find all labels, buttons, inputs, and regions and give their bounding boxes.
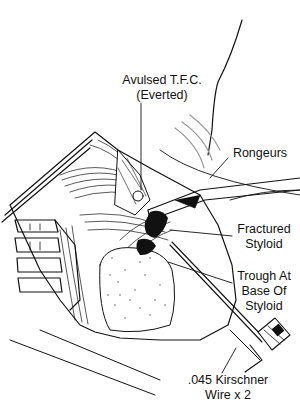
label-avulsed-tfc: Avulsed T.F.C. (Everted) [108,73,216,103]
label-rongeurs: Rongeurs [228,146,292,161]
label-kirschner-wire-line1: .045 Kirschner [180,373,276,388]
label-avulsed-tfc-line2: (Everted) [108,88,216,103]
tfc-flap [115,150,150,215]
label-fractured-styloid-line1: Fractured [232,222,296,237]
label-trough-line2: Base Of [232,284,296,299]
label-trough-line1: Trough At [232,269,296,284]
label-fractured-styloid-line2: Styloid [232,237,296,252]
forearm-contour [160,20,300,200]
ulnar-head [100,248,175,332]
leader-wire [222,348,236,373]
leader-styloid [170,230,232,236]
rongeurs-instrument [148,178,300,220]
label-fractured-styloid: Fractured Styloid [232,222,296,252]
label-kirschner-wire-line2: Wire x 2 [180,388,276,403]
label-avulsed-tfc-line1: Avulsed T.F.C. [108,73,216,88]
leader-trough [168,262,232,283]
surgical-illustration [0,0,300,407]
label-kirschner-wire: .045 Kirschner Wire x 2 [180,373,276,403]
leader-rongeurs [210,158,228,178]
label-trough-line3: Styloid [232,299,296,314]
label-rongeurs-line1: Rongeurs [228,146,292,161]
retractor-left [15,220,80,310]
label-trough: Trough At Base Of Styloid [232,269,296,314]
